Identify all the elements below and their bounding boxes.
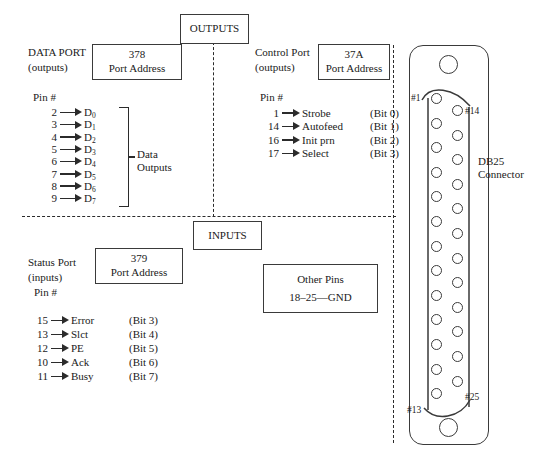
- arrow-right-icon: [48, 342, 70, 355]
- pin-row: 16Init prn(Bit 2): [262, 133, 399, 147]
- status-port-address: 379: [131, 252, 148, 266]
- status-port-title: Status Port: [28, 256, 76, 269]
- control-port-direction: (outputs): [255, 61, 295, 74]
- status-port-address-box: 379 Port Address: [95, 248, 183, 284]
- pin-row: 3D1: [40, 118, 96, 130]
- connector-screw-hole-top: [439, 55, 458, 74]
- pin-row: 10Ack(Bit 6): [31, 355, 158, 369]
- arrow-right-icon: [57, 179, 83, 192]
- pin-row: 2D0: [40, 106, 96, 118]
- pin-row: 9D7: [40, 192, 96, 204]
- pin-number: 8: [40, 180, 57, 192]
- arrow-right-icon: [57, 192, 83, 205]
- pin-signal-label: D7: [83, 192, 96, 204]
- pin-row: 7D5: [40, 167, 96, 179]
- db25-connector-label: DB25 Connector: [478, 155, 524, 180]
- connector-pin1-label: #1: [411, 93, 421, 103]
- status-port-direction: (inputs): [28, 271, 62, 284]
- other-pins-detail: 18–25—GND: [289, 291, 351, 305]
- control-port-name: Control Port: [255, 46, 310, 58]
- pin-signal-label: Select: [301, 147, 364, 159]
- pin-row: 5D3: [40, 143, 96, 155]
- connector-pin-hole: [452, 130, 463, 141]
- arrow-right-icon: [48, 328, 70, 341]
- pin-signal-subscript: 1: [92, 123, 96, 132]
- pin-bit-label: (Bit 1): [364, 120, 399, 132]
- status-port-pin-list: 15Error(Bit 3)13Slct(Bit 4)12PE(Bit 5)10…: [31, 313, 158, 383]
- data-port-address-caption: Port Address: [109, 62, 166, 76]
- pin-signal-label: Strobe: [301, 107, 364, 119]
- pin-number: 15: [31, 314, 48, 326]
- arrow-right-icon: [279, 106, 301, 119]
- pin-number: 12: [31, 342, 48, 354]
- arrow-right-icon: [57, 130, 83, 143]
- diagram-canvas: OUTPUTS INPUTS DATA PORT (outputs) 378 P…: [0, 0, 558, 471]
- pin-row: 8D6: [40, 180, 96, 192]
- pin-bit-label: (Bit 7): [123, 370, 158, 382]
- data-outputs-bracket-tick: [128, 156, 135, 158]
- inputs-section-box: INPUTS: [193, 221, 262, 250]
- pin-signal-label: D5: [83, 168, 96, 180]
- pin-bit-label: (Bit 5): [123, 342, 158, 354]
- arrow-right-icon: [48, 356, 70, 369]
- pin-number: 6: [40, 155, 57, 167]
- pin-bit-label: (Bit 4): [123, 328, 158, 340]
- pin-row: 17Select(Bit 3): [262, 147, 399, 161]
- pin-number: 7: [40, 168, 57, 180]
- connector-pin-hole: [452, 302, 463, 313]
- connector-pin25-label: #25: [465, 392, 479, 402]
- pin-bit-label: (Bit 2): [364, 134, 399, 146]
- pin-row: 11Busy(Bit 7): [31, 369, 158, 383]
- pin-row: 6D4: [40, 155, 96, 167]
- pin-signal-subscript: 3: [92, 148, 96, 157]
- data-port-pin-list: 2D03D14D25D36D47D58D69D7: [40, 106, 96, 204]
- control-port-address-caption: Port Address: [326, 62, 383, 76]
- status-port-address-caption: Port Address: [111, 266, 168, 280]
- arrow-right-icon: [279, 133, 301, 146]
- pin-number: 1: [262, 107, 279, 119]
- pin-row: 4D2: [40, 131, 96, 143]
- pin-number: 10: [31, 356, 48, 368]
- pin-number: 9: [40, 192, 57, 204]
- connector-pin-hole: [431, 216, 442, 227]
- pin-number: 14: [262, 120, 279, 132]
- pin-signal-subscript: 7: [92, 197, 96, 206]
- arrow-right-icon: [57, 143, 83, 156]
- control-port-pin-list: 1Strobe(Bit 0)14Autofeed(Bit 1)16Init pr…: [262, 106, 399, 160]
- connector-pin-hole: [431, 339, 442, 350]
- pin-row: 12PE(Bit 5): [31, 341, 158, 355]
- arrow-right-icon: [48, 314, 70, 327]
- pin-signal-label: Ack: [70, 356, 123, 368]
- outputs-label: OUTPUTS: [190, 22, 240, 36]
- pin-number: 3: [40, 118, 57, 130]
- arrow-right-icon: [279, 147, 301, 160]
- divider-vertical-right: [393, 45, 394, 443]
- pin-bit-label: (Bit 0): [364, 107, 399, 119]
- connector-pin-hole: [431, 118, 442, 129]
- pin-signal-label: Error: [70, 314, 123, 326]
- control-port-address: 37A: [345, 48, 364, 62]
- pin-bit-label: (Bit 3): [123, 314, 158, 326]
- pin-signal-label: Slct: [70, 328, 123, 340]
- pin-signal-subscript: 4: [92, 160, 96, 169]
- control-port-address-box: 37A Port Address: [318, 44, 390, 80]
- data-port-address-box: 378 Port Address: [92, 44, 182, 80]
- inputs-label: INPUTS: [208, 229, 247, 243]
- pin-signal-subscript: 5: [92, 173, 96, 182]
- pin-bit-label: (Bit 3): [364, 147, 399, 159]
- arrow-right-icon: [48, 370, 70, 383]
- pin-number: 13: [31, 328, 48, 340]
- connector-pin13-label: #13: [407, 405, 421, 415]
- connector-pin-hole: [431, 167, 442, 178]
- pin-bit-label: (Bit 6): [123, 356, 158, 368]
- pin-number: 11: [31, 370, 48, 382]
- pin-row: 15Error(Bit 3): [31, 313, 158, 327]
- status-port-pin-header: Pin #: [34, 286, 57, 299]
- data-port-address: 378: [129, 48, 146, 62]
- outputs-section-box: OUTPUTS: [180, 14, 249, 44]
- arrow-right-icon: [279, 120, 301, 133]
- arrow-right-icon: [57, 155, 83, 168]
- divider-horizontal: [22, 216, 396, 217]
- connector-pin-hole: [452, 179, 463, 190]
- pin-number: 17: [262, 147, 279, 159]
